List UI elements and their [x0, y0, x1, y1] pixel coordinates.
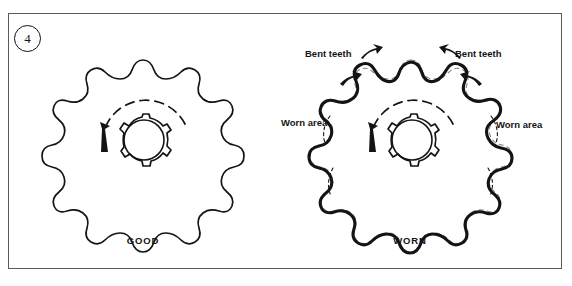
annotation-worn-area-left: Worn area [281, 117, 327, 128]
annotation-bent-teeth-right: Bent teeth [455, 48, 501, 59]
figure-root: 4 [0, 0, 572, 286]
step-number-label: 4 [24, 32, 31, 45]
step-number-badge: 4 [14, 25, 41, 52]
annotation-worn-area-right: Worn area [496, 119, 542, 130]
caption-good: GOOD [103, 235, 183, 246]
annotation-bent-teeth-left: Bent teeth [305, 48, 351, 59]
caption-worn: WORN [370, 235, 450, 246]
